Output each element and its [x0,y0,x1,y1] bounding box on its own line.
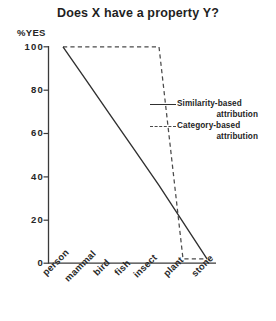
chart-figure: Does X have a property Y? %YES 100 80 60… [0,0,276,321]
legend-entry-category-based: Category-based [150,121,274,132]
legend-label-continued: attribution [150,110,274,121]
x-tick-label-plant: plant [161,254,186,279]
legend-label: Category-based [177,121,240,130]
legend-key-solid-line-icon [150,104,176,105]
legend-key-dashed-line-icon [150,126,176,127]
x-tick-label-bird: bird [91,257,112,278]
legend-entry-similarity-based: Similarity-based [150,99,274,110]
legend-label: Similarity-based [177,99,242,108]
x-tick-label-fish: fish [112,257,132,277]
x-tick-label-stone: stone [189,252,215,278]
legend-label-continued: attribution [150,132,274,143]
x-tick-label-insect: insect [131,252,159,280]
chart-legend: Similarity-based attribution Category-ba… [150,99,274,143]
x-axis-tick-labels: person mammal bird fish insect plant sto… [0,0,276,321]
